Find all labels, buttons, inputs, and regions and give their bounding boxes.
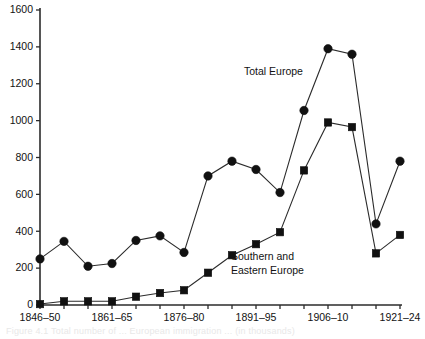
data-point-marker <box>396 231 403 238</box>
immigration-line-chart: 02004006008001000120014001600 1846–50186… <box>0 0 425 339</box>
y-axis-tick-label: 1200 <box>10 77 34 89</box>
x-axis-tick-label: 1906–10 <box>308 311 349 323</box>
data-point-marker <box>180 287 187 294</box>
data-point-marker <box>372 250 379 257</box>
data-point-marker <box>132 236 140 244</box>
total-europe-label: Total Europe <box>244 65 303 77</box>
data-point-marker <box>372 220 380 228</box>
data-point-marker <box>348 50 356 58</box>
y-axis-tick-label: 1000 <box>10 114 34 126</box>
y-axis-tick-label: 400 <box>15 225 33 237</box>
x-axis-tick-label: 1921–24 <box>380 311 421 323</box>
data-point-marker <box>84 262 92 270</box>
data-point-marker <box>324 119 331 126</box>
data-point-marker <box>204 269 211 276</box>
x-axis-tick-label: 1846–50 <box>20 311 61 323</box>
data-point-marker <box>276 188 284 196</box>
data-point-marker <box>180 248 188 256</box>
y-axis-tick-label: 200 <box>15 261 33 273</box>
data-point-marker <box>156 289 163 296</box>
chart-background <box>0 0 425 339</box>
data-point-marker <box>324 45 332 53</box>
y-axis-tick-label: 1600 <box>10 3 34 15</box>
data-point-marker <box>36 255 44 263</box>
data-point-marker <box>132 293 139 300</box>
data-point-marker <box>300 106 308 114</box>
y-axis-tick-label: 0 <box>27 298 33 310</box>
data-point-marker <box>108 259 116 267</box>
data-point-marker <box>300 167 307 174</box>
data-point-marker <box>60 237 68 245</box>
data-point-marker <box>36 300 43 307</box>
data-point-marker <box>204 172 212 180</box>
southern-eastern-label: Southern and <box>231 250 294 262</box>
data-point-marker <box>252 165 260 173</box>
data-point-marker <box>276 228 283 235</box>
figure-container: 02004006008001000120014001600 1846–50186… <box>0 0 425 339</box>
data-point-marker <box>348 123 355 130</box>
y-axis-tick-label: 800 <box>15 151 33 163</box>
southern-eastern-label-line2: Eastern Europe <box>231 264 304 276</box>
figure-caption: Figure 4.1 Total number of ... European … <box>6 326 295 336</box>
data-point-marker <box>156 232 164 240</box>
data-point-marker <box>252 240 259 247</box>
data-point-marker <box>84 298 91 305</box>
x-axis-tick-label: 1891–95 <box>236 311 277 323</box>
x-axis-tick-label: 1861–65 <box>92 311 133 323</box>
y-axis-tick-label: 1400 <box>10 40 34 52</box>
data-point-marker <box>108 298 115 305</box>
data-point-marker <box>60 298 67 305</box>
data-point-marker <box>396 157 404 165</box>
x-axis-tick-label: 1876–80 <box>164 311 205 323</box>
data-point-marker <box>228 157 236 165</box>
y-axis-tick-label: 600 <box>15 188 33 200</box>
